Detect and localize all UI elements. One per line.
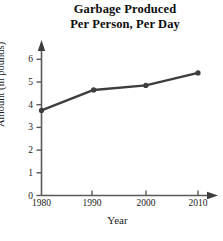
x-axis-title: Year bbox=[30, 214, 205, 226]
data-point-1990 bbox=[91, 87, 96, 92]
y-axis-arrow-icon bbox=[38, 40, 45, 51]
y-tick-label-5: 5 bbox=[22, 77, 33, 87]
data-point-markers bbox=[39, 70, 201, 113]
y-axis-title: Amount (in pounds) bbox=[0, 84, 6, 169]
y-tick-label-1: 1 bbox=[22, 168, 33, 178]
y-tick-label-2: 2 bbox=[22, 145, 33, 155]
x-tick-label-2010: 2010 bbox=[189, 198, 208, 208]
data-point-2010 bbox=[195, 70, 200, 75]
y-axis-title-text: Amount (in pounds) bbox=[0, 84, 6, 127]
data-point-2000 bbox=[143, 83, 148, 88]
data-point-1980 bbox=[39, 108, 44, 113]
chart-figure: Garbage Produced Per Person, Per Day bbox=[0, 0, 223, 241]
x-tick-label-1980: 1980 bbox=[32, 198, 51, 208]
x-axis-arrow-icon bbox=[207, 192, 218, 199]
x-tick-label-1990: 1990 bbox=[83, 198, 102, 208]
y-tick-label-3: 3 bbox=[22, 122, 33, 132]
y-tick-label-4: 4 bbox=[22, 100, 33, 110]
x-tick-label-2000: 2000 bbox=[137, 198, 156, 208]
data-line-series bbox=[42, 73, 199, 110]
y-tick-label-6: 6 bbox=[22, 54, 33, 64]
